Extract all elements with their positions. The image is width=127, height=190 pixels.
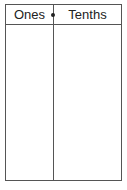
column-header-ones: Ones [6,6,53,24]
place-value-chart: Ones Tenths [5,4,122,181]
column-header-tenths: Tenths [54,6,121,24]
header-separator [6,24,121,25]
decimal-point-icon [51,13,55,17]
column-divider [53,5,54,180]
